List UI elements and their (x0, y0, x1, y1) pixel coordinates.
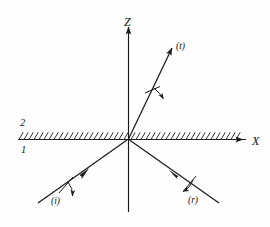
diagram-canvas (0, 0, 270, 227)
ray-reflected (130, 140, 220, 203)
medium-lower-label: 1 (21, 145, 26, 156)
ray-transmitted (129, 48, 173, 139)
medium-upper-label: 2 (20, 118, 25, 129)
optics-ray-diagram: Z X 2 1 (t) (i) (r) (0, 0, 270, 227)
interface-boundary (18, 132, 246, 139)
x-axis-label: X (252, 135, 259, 147)
ray-label-transmitted: (t) (176, 42, 185, 52)
z-axis-label: Z (124, 16, 131, 28)
ray-label-reflected: (r) (188, 196, 198, 206)
ray-label-incident: (i) (51, 197, 60, 207)
ray-incident (38, 140, 127, 203)
polarization-marker-transmitted (145, 87, 164, 100)
